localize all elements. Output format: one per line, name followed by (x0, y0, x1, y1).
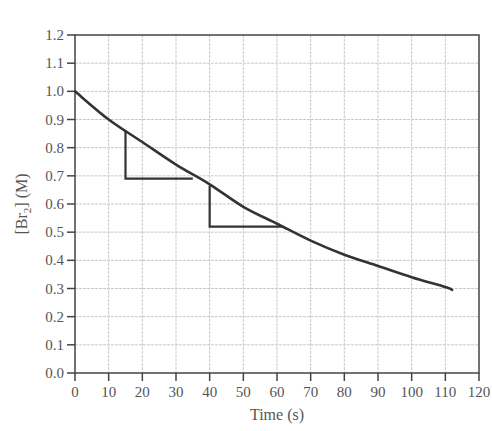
x-tick-label: 90 (371, 384, 386, 400)
x-tick-label: 100 (400, 384, 423, 400)
y-tick-label: 0.1 (45, 337, 64, 353)
y-tick-label: 0.4 (45, 252, 64, 268)
axes (67, 35, 479, 381)
concentration-time-chart: 01020304050607080901001101200.00.10.20.3… (0, 0, 492, 431)
y-tick-label: 0.2 (45, 309, 64, 325)
x-tick-label: 80 (337, 384, 352, 400)
y-tick-label: 1.0 (45, 83, 64, 99)
y-tick-label: 0.7 (45, 168, 64, 184)
y-tick-label: 0.0 (45, 365, 64, 381)
x-tick-label: 20 (135, 384, 150, 400)
y-tick-label: 0.5 (45, 224, 64, 240)
x-tick-label: 50 (236, 384, 251, 400)
y-tick-label: 0.9 (45, 112, 64, 128)
y-axis-title-tail: ] (M) (13, 173, 31, 207)
x-tick-label: 110 (434, 384, 456, 400)
y-axis-title-main: [Br (13, 213, 30, 235)
y-tick-label: 1.2 (45, 27, 64, 43)
tick-labels: 01020304050607080901001101200.00.10.20.3… (45, 27, 490, 400)
y-tick-label: 0.3 (45, 281, 64, 297)
y-tick-label: 0.8 (45, 140, 64, 156)
y-axis-title: [Br2] (M) (13, 173, 33, 234)
x-tick-label: 0 (71, 384, 79, 400)
grid-lines (75, 35, 479, 373)
x-tick-label: 40 (202, 384, 217, 400)
x-axis-title: Time (s) (250, 406, 304, 424)
x-tick-label: 10 (101, 384, 116, 400)
y-tick-label: 1.1 (45, 55, 64, 71)
x-tick-label: 70 (303, 384, 318, 400)
y-tick-label: 0.6 (45, 196, 64, 212)
x-tick-label: 60 (270, 384, 285, 400)
x-tick-label: 30 (169, 384, 184, 400)
x-tick-label: 120 (468, 384, 491, 400)
